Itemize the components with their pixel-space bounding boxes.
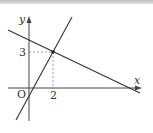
y-axis bbox=[27, 16, 32, 121]
guide-lines bbox=[29, 52, 53, 88]
coordinate-diagram: y x O 2 3 bbox=[0, 0, 153, 133]
intersection-point bbox=[51, 50, 55, 54]
x-axis-label: x bbox=[134, 74, 141, 87]
x-axis bbox=[8, 86, 142, 91]
steep-increasing-line bbox=[16, 17, 72, 120]
y-axis-label: y bbox=[18, 13, 26, 26]
y-axis-arrow-icon bbox=[27, 16, 32, 23]
x-tick-label: 2 bbox=[50, 89, 57, 102]
decreasing-line bbox=[8, 30, 140, 93]
origin-label: O bbox=[17, 88, 26, 101]
y-tick-label: 3 bbox=[19, 46, 26, 59]
